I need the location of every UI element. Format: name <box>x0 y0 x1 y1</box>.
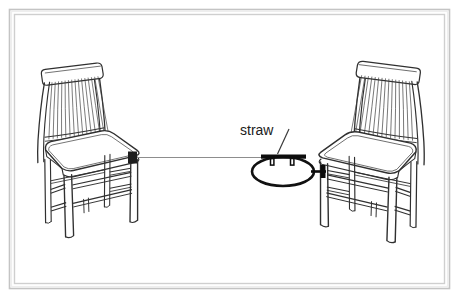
knot-left-chair-leg <box>129 152 137 163</box>
knot-left-band <box>129 152 137 163</box>
straw-body <box>261 155 306 159</box>
knot-right-band <box>321 165 326 178</box>
straw-label: straw <box>240 122 274 138</box>
illustration-canvas: straw <box>0 0 459 298</box>
figure-container: straw <box>0 0 459 298</box>
